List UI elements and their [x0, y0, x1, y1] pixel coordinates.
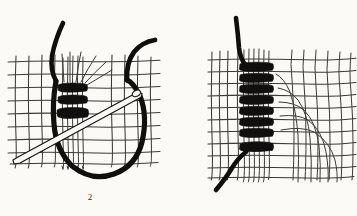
wrapping-coil-2: [239, 73, 273, 82]
wrapping-coil-5: [239, 106, 273, 115]
wrapping-coil-2: [58, 95, 88, 104]
wrapping-coil-8: [239, 142, 273, 152]
wrapping-coil-6: [239, 117, 273, 126]
wrapping-coil-1: [58, 83, 88, 92]
wrapping-coil-3: [239, 84, 273, 93]
wrapping-coil-1: [239, 62, 273, 71]
figure-3-drawing: [180, 0, 357, 216]
wrapping-coil-4: [239, 95, 273, 104]
figure-2-caption: 2: [68, 192, 112, 202]
thread-tail-upper-left: [52, 23, 64, 81]
figure-2: 2: [0, 0, 180, 216]
illustration-page: 2: [0, 0, 357, 216]
wrapping-coil-7: [239, 128, 273, 137]
fabric-mesh-horizontal: [208, 58, 356, 178]
wrapping-coils: [57, 83, 89, 118]
wrapping-coil-3: [57, 107, 89, 118]
figure-3: 3: [180, 0, 357, 216]
splayed-threads-fan: [62, 52, 112, 85]
figure-2-drawing: [0, 0, 180, 216]
drawn-in-curved-threads: [276, 50, 353, 182]
